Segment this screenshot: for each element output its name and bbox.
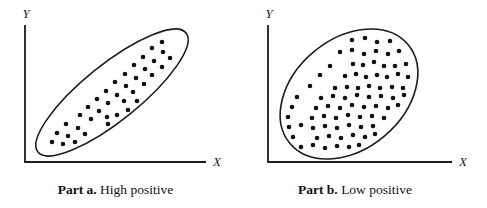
envelope-ellipse-part-b (255, 2, 444, 178)
data-point (86, 105, 91, 110)
caption-part-b-label: Part b. (298, 182, 338, 197)
data-point (333, 86, 338, 91)
data-point (346, 113, 351, 118)
data-point (335, 126, 340, 131)
data-point (168, 56, 173, 61)
data-point (123, 72, 128, 77)
data-point (356, 86, 361, 91)
data-point (402, 93, 407, 98)
data-point (347, 123, 352, 128)
data-point (115, 93, 120, 98)
data-point (95, 97, 100, 102)
data-point (106, 101, 111, 106)
data-point (318, 73, 323, 78)
data-point (76, 126, 81, 131)
data-point (131, 90, 136, 95)
data-point (73, 140, 78, 145)
data-point (89, 117, 94, 122)
data-point (351, 62, 356, 67)
data-point (363, 135, 368, 140)
data-point (334, 116, 339, 121)
data-point (160, 40, 165, 45)
data-point (404, 62, 409, 67)
data-point (350, 48, 355, 53)
data-point (382, 64, 387, 69)
data-point (314, 106, 319, 111)
data-point (364, 75, 369, 80)
data-point (132, 63, 137, 68)
data-point (396, 103, 401, 108)
data-point (378, 86, 383, 91)
data-point (390, 85, 395, 90)
data-point (393, 64, 398, 69)
data-point (295, 95, 300, 100)
data-point (64, 122, 69, 127)
data-point (351, 133, 356, 138)
data-point (135, 99, 140, 104)
data-point (347, 145, 352, 150)
caption-part-a-label: Part a. (58, 182, 97, 197)
data-point (375, 40, 380, 45)
data-point (311, 143, 316, 148)
caption-part-b: Part b. Low positive (262, 182, 448, 200)
data-point (286, 115, 291, 120)
data-point (379, 94, 384, 99)
data-point (391, 96, 396, 101)
data-point (372, 60, 377, 65)
data-point (374, 49, 379, 54)
data-point (287, 125, 292, 130)
data-point (115, 113, 120, 118)
data-point (363, 36, 368, 41)
y-axis-label-part-a: Y (22, 6, 31, 21)
data-point (134, 76, 139, 81)
data-point (299, 123, 304, 128)
scatter-panel-part-b: YX (255, 2, 468, 178)
x-axis-label-part-a: X (212, 154, 222, 169)
data-point (326, 104, 331, 109)
data-point (343, 74, 348, 79)
data-point (358, 115, 363, 120)
data-point (55, 131, 60, 136)
data-point (367, 95, 372, 100)
data-point (385, 75, 390, 80)
data-point (161, 50, 166, 55)
data-point (150, 46, 155, 51)
data-point (315, 136, 320, 141)
data-point (126, 108, 131, 113)
data-point (362, 105, 367, 110)
data-point (382, 116, 387, 121)
data-point (78, 113, 83, 118)
data-point (290, 105, 295, 110)
data-point (124, 84, 129, 89)
data-point (331, 94, 336, 99)
data-point (328, 64, 333, 69)
data-point (359, 125, 364, 130)
data-point (106, 122, 111, 127)
data-point (386, 106, 391, 111)
data-point (323, 146, 328, 151)
caption-part-b-text: Low positive (338, 182, 412, 197)
data-point (373, 132, 378, 137)
data-point (355, 93, 360, 98)
data-point (311, 126, 316, 131)
data-point (406, 75, 411, 80)
data-point (375, 73, 380, 78)
data-point (308, 84, 313, 89)
data-point (323, 124, 328, 129)
data-point (160, 65, 165, 70)
data-point (50, 140, 55, 145)
data-point (354, 72, 359, 77)
data-point (345, 85, 350, 90)
data-point (338, 106, 343, 111)
data-point (339, 136, 344, 141)
data-point (83, 132, 88, 137)
envelope-ellipse-part-a (20, 11, 203, 174)
data-point (350, 38, 355, 43)
x-axis-label-part-b: X (458, 154, 468, 169)
data-point (66, 134, 71, 139)
data-point (362, 52, 367, 57)
data-point (141, 55, 146, 60)
data-point (357, 143, 362, 148)
data-point (371, 124, 376, 129)
data-point (104, 89, 109, 94)
